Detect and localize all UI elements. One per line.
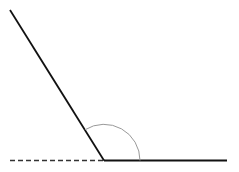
angle-diagram xyxy=(0,0,239,172)
slanted-ray xyxy=(10,10,104,161)
